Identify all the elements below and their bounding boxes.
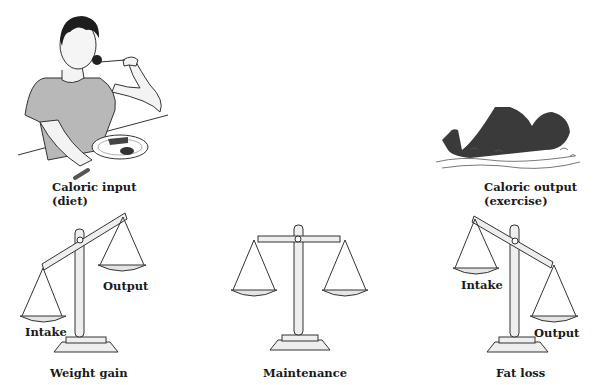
maintenance-title: Maintenance	[263, 366, 347, 380]
caption-line: Caloric input	[52, 180, 137, 194]
eating-person-illustration	[18, 16, 168, 178]
fat-loss-title: Fat loss	[496, 366, 545, 380]
scale-maintenance	[231, 225, 368, 350]
caloric-output-caption: Caloric output (exercise)	[484, 180, 577, 208]
caption-line: Caloric output	[484, 180, 577, 194]
weight-gain-title: Weight gain	[50, 366, 128, 380]
fat-loss-output-label: Output	[534, 326, 579, 340]
fat-loss-intake-label: Intake	[461, 278, 503, 292]
weight-gain-output-label: Output	[103, 279, 148, 293]
caption-line: (exercise)	[484, 194, 577, 208]
swimmer-illustration	[436, 107, 580, 168]
caloric-input-caption: Caloric input (diet)	[52, 180, 137, 208]
caption-line: (diet)	[52, 194, 137, 208]
weight-gain-intake-label: Intake	[25, 325, 67, 339]
